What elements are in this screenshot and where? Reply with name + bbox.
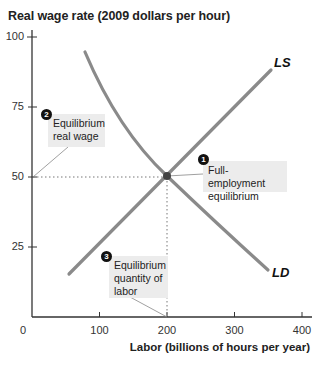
callout-1-line2: equilibrium: [208, 190, 283, 203]
callout-1-marker: 1: [198, 154, 209, 165]
callout-1-leader: [167, 174, 203, 176]
equilibrium-point: [163, 172, 171, 180]
ls-curve-label: LS: [274, 55, 291, 70]
callout-2-leader: [33, 147, 68, 177]
callout-3-line3: labor: [114, 285, 164, 298]
y-tick-label-50: 50: [0, 170, 24, 182]
x-tick-label-200: 200: [152, 324, 182, 336]
callout-3-line2: quantity of: [114, 272, 164, 285]
y-tick-label-100: 100: [0, 30, 24, 42]
y-tick-label-25: 25: [0, 240, 24, 252]
x-tick-label-100: 100: [85, 324, 115, 336]
y-axis-title: Real wage rate (2009 dollars per hour): [8, 9, 230, 23]
callout-1-line1: Full-employment: [208, 164, 283, 190]
callout-equilibrium-wage: Equilibrium real wage: [48, 114, 105, 147]
callout-3-line1: Equilibrium: [114, 259, 164, 272]
ld-curve-label: LD: [272, 265, 289, 280]
x-tick-label-400: 400: [287, 324, 317, 336]
x-axis-title: Labor (billions of hours per year): [130, 341, 310, 353]
callout-3-marker: 3: [101, 251, 112, 262]
y-tick-label-75: 75: [0, 100, 24, 112]
callout-2-marker: 2: [41, 109, 52, 120]
callout-2-line1: Equilibrium: [53, 117, 101, 130]
callout-equilibrium-quantity: Equilibrium quantity of labor: [109, 256, 168, 298]
callout-2-line2: real wage: [53, 130, 101, 143]
x-tick-label-0: 0: [8, 324, 38, 336]
callout-3-leader: [130, 297, 167, 317]
callout-full-employment: Full-employment equilibrium: [203, 161, 287, 192]
x-tick-label-300: 300: [220, 324, 250, 336]
